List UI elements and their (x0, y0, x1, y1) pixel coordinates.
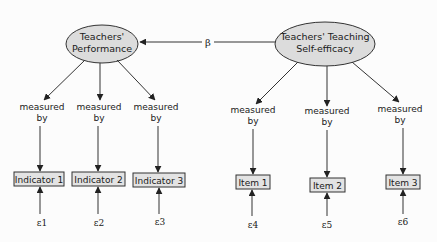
error-arrows (40, 187, 403, 216)
indicator-2: Indicator 2 (72, 172, 125, 186)
error-label-e4: ε4 (248, 220, 259, 230)
measured-by-label: measured by (134, 102, 179, 123)
svg-text:by: by (36, 113, 48, 123)
beta-path: β (140, 37, 275, 48)
beta-label: β (205, 37, 211, 48)
item-1-label: Item 1 (238, 178, 267, 188)
error-label-e6: ε6 (398, 217, 409, 227)
latent-teachers-performance: Teachers' Performance (66, 25, 138, 63)
error-label-e2: ε2 (94, 218, 104, 228)
svg-text:by: by (321, 117, 333, 127)
latent-self-efficacy-line1: Teachers' Teaching (279, 31, 369, 42)
svg-text:by: by (394, 115, 406, 125)
latent-performance-line2: Performance (72, 43, 132, 54)
indicator-1: Indicator 1 (14, 172, 64, 186)
sem-diagram: β Teachers' Performance Teachers' Teachi… (0, 0, 437, 242)
indicator-2-label: Indicator 2 (74, 175, 122, 185)
measured-by-label: measured by (305, 106, 350, 127)
svg-text:by: by (93, 113, 105, 123)
svg-text:measured: measured (378, 104, 423, 114)
measured-by-label: measured by (378, 104, 423, 125)
measure-arrows (40, 126, 403, 177)
svg-text:measured: measured (20, 102, 65, 112)
error-label-e1: ε1 (37, 218, 47, 228)
measured-by-label: measured by (77, 102, 122, 123)
error-label-e3: ε3 (155, 217, 166, 227)
loading-arrows-performance (44, 60, 155, 100)
svg-text:measured: measured (305, 106, 350, 116)
measured-by-label: measured by (231, 105, 276, 126)
svg-text:measured: measured (77, 102, 122, 112)
indicator-3: Indicator 3 (133, 173, 185, 187)
latent-self-efficacy-line2: Self-efficacy (296, 43, 354, 54)
svg-text:by: by (247, 116, 259, 126)
svg-text:measured: measured (134, 102, 179, 112)
svg-text:by: by (150, 113, 162, 123)
item-2-label: Item 2 (313, 181, 342, 191)
indicator-3-label: Indicator 3 (135, 176, 183, 186)
indicator-1-label: Indicator 1 (15, 175, 63, 185)
latent-teachers-teaching-self-efficacy: Teachers' Teaching Self-efficacy (275, 22, 375, 66)
item-3-label: Item 3 (388, 178, 417, 188)
loading-arrows-self-efficacy (256, 62, 399, 106)
latent-performance-line1: Teachers' (79, 31, 124, 42)
item-1: Item 1 (236, 175, 270, 189)
svg-text:measured: measured (231, 105, 276, 115)
error-label-e5: ε5 (322, 220, 333, 230)
item-3: Item 3 (386, 175, 420, 189)
measured-by-label: measured by (20, 102, 65, 123)
item-2: Item 2 (310, 178, 345, 192)
